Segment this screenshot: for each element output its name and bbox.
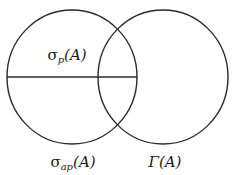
label-gamma: Γ(A) [148, 153, 182, 171]
label-sigma-ap: σap(A) [50, 153, 95, 172]
venn-diagram: σp(A) σap(A) Γ(A) [0, 0, 234, 175]
label-sigma-p: σp(A) [47, 46, 86, 65]
